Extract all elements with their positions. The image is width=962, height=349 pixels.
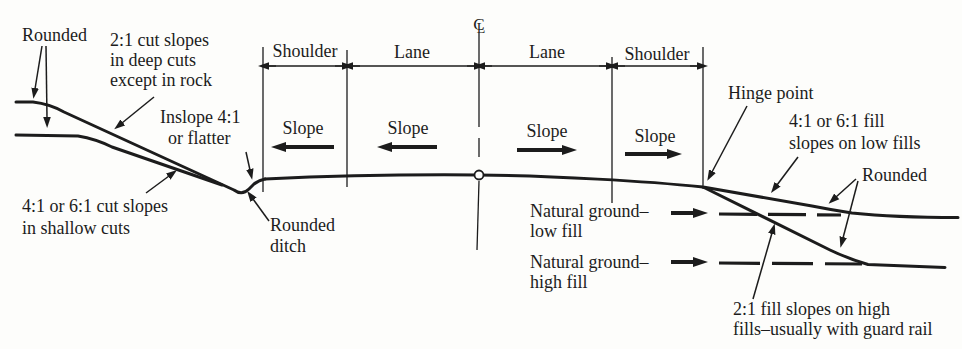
slope-label-left-lane: Slope <box>387 118 428 138</box>
slope-label-left-shoulder: Slope <box>282 118 323 138</box>
svg-text:slopes on low fills: slopes on low fills <box>789 133 921 153</box>
fill-high-leader <box>753 233 772 299</box>
cut-deep-label: 2:1 cut slopes in deep cuts except in ro… <box>110 30 212 90</box>
natural-ground-high-dashed-line <box>719 263 862 264</box>
rounded-left-leader-lower <box>46 46 47 118</box>
slope-label-right-lane: Slope <box>526 121 567 141</box>
hinge-point-leader <box>712 106 747 172</box>
natural-ground-low-dashed-line <box>719 214 841 215</box>
svg-text:except in rock: except in rock <box>110 70 212 90</box>
svg-text:2:1 cut slopes: 2:1 cut slopes <box>110 30 209 50</box>
svg-text:2:1 fill slopes on high: 2:1 fill slopes on high <box>733 299 890 319</box>
svg-text:in shallow cuts: in shallow cuts <box>22 218 130 238</box>
lane-left-label: Lane <box>394 42 430 62</box>
rounded-right-label: Rounded <box>862 165 927 185</box>
centerline-lower-segment <box>477 181 479 250</box>
svg-text:fills–usually with guard rail: fills–usually with guard rail <box>733 319 932 339</box>
rounded-right-leader-upper <box>836 179 856 197</box>
cut-deep-leader <box>122 97 154 123</box>
fill-low-label: 4:1 or 6:1 fill slopes on low fills <box>789 111 921 153</box>
svg-text:in deep cuts: in deep cuts <box>110 50 196 70</box>
svg-text:4:1 or 6:1 cut slopes: 4:1 or 6:1 cut slopes <box>22 196 168 216</box>
svg-text:L: L <box>477 21 486 36</box>
centerline-symbol: C L <box>473 15 485 36</box>
hinge-point-label: Hinge point <box>728 83 814 103</box>
inslope-label: Inslope 4:1 or flatter <box>160 107 241 148</box>
fill-high-label: 2:1 fill slopes on high fills–usually wi… <box>733 299 932 339</box>
svg-text:or flatter: or flatter <box>168 128 230 148</box>
cut-shallow-label: 4:1 or 6:1 cut slopes in shallow cuts <box>22 196 168 238</box>
svg-text:Rounded: Rounded <box>270 215 335 235</box>
svg-text:Natural ground–: Natural ground– <box>530 252 649 272</box>
cut-shallow-leader <box>146 176 169 193</box>
svg-text:4:1 or 6:1 fill: 4:1 or 6:1 fill <box>789 111 885 131</box>
lane-right-label: Lane <box>529 42 565 62</box>
fill-slope-high-line <box>703 187 945 268</box>
rounded-left-label: Rounded <box>22 25 87 45</box>
rounded-ditch-leader <box>253 199 269 221</box>
slope-label-right-shoulder: Slope <box>634 126 675 146</box>
natural-ground-high-label: Natural ground– high fill <box>530 252 649 292</box>
inslope-leader <box>246 152 250 170</box>
fill-low-leader <box>777 157 798 185</box>
centerline-crown-point <box>475 171 484 180</box>
diagram-canvas: Rounded 2:1 cut slopes in deep cuts exce… <box>0 0 962 349</box>
natural-ground-low-label: Natural ground– low fill <box>530 201 649 241</box>
svg-text:low fill: low fill <box>530 221 583 241</box>
svg-text:ditch: ditch <box>270 236 306 256</box>
svg-text:high fill: high fill <box>530 272 588 292</box>
highway-cross-section-diagram: Rounded 2:1 cut slopes in deep cuts exce… <box>0 0 962 349</box>
svg-text:Natural ground–: Natural ground– <box>530 201 649 221</box>
rounded-ditch-label: Rounded ditch <box>270 215 335 256</box>
rounded-left-leader-upper <box>35 46 42 89</box>
shoulder-right-label: Shoulder <box>625 44 690 64</box>
svg-text:Inslope 4:1: Inslope 4:1 <box>160 107 241 127</box>
shoulder-left-label: Shoulder <box>273 41 338 61</box>
